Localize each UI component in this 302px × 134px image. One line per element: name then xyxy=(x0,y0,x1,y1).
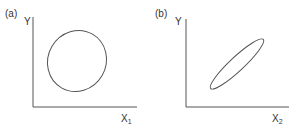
panel-b-y-label: Y xyxy=(175,16,182,27)
panel-a-ellipse xyxy=(36,20,117,103)
panel-a-x-label: X1 xyxy=(121,113,132,125)
figure: (a) Y X1 (b) Y X2 xyxy=(0,0,302,134)
panel-b-x-label: X2 xyxy=(272,113,283,125)
panel-a-y-label: Y xyxy=(24,16,31,27)
panel-b: (b) Y X2 xyxy=(155,8,289,125)
panel-a: (a) Y X1 xyxy=(5,8,137,125)
panel-a-tag: (a) xyxy=(5,8,17,19)
panel-b-ellipse xyxy=(206,34,268,93)
panel-b-tag: (b) xyxy=(155,8,167,19)
